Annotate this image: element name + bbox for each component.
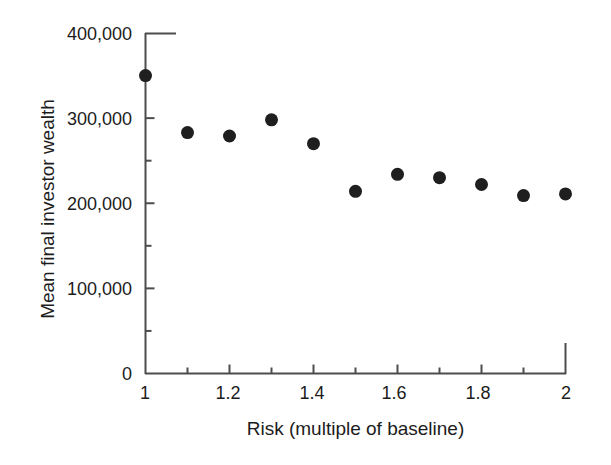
data-point — [265, 113, 278, 126]
tick-marks — [146, 76, 524, 374]
data-point — [307, 137, 320, 150]
plot-area — [0, 0, 611, 465]
data-point — [517, 189, 530, 202]
data-point — [475, 178, 488, 191]
data-point — [391, 168, 404, 181]
chart-figure: Mean final investor wealth 400,000 300,0… — [0, 0, 611, 465]
data-point — [181, 126, 194, 139]
data-point — [223, 130, 236, 143]
data-point — [559, 187, 572, 200]
data-point — [433, 171, 446, 184]
x-axis-title: Risk (multiple of baseline) — [145, 418, 566, 440]
data-point-group — [139, 69, 572, 202]
data-point — [349, 185, 362, 198]
data-point — [139, 69, 152, 82]
axis-frame — [145, 33, 566, 374]
